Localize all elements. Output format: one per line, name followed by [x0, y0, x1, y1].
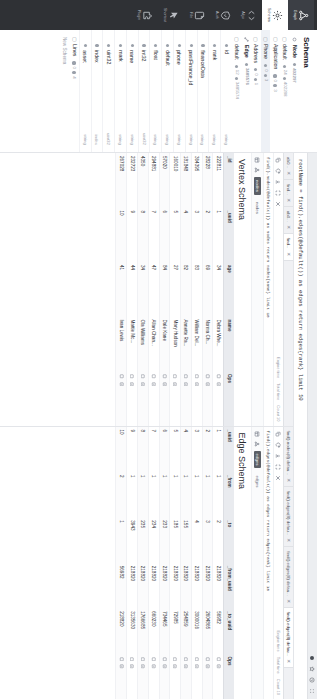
property-row-financedata[interactable]: financeData string: [197, 30, 209, 152]
table-row[interactable]: 294881 7 47 Allan Chan...: [148, 153, 159, 426]
bookmark-star-icon[interactable]: [310, 666, 316, 672]
detail-icon[interactable]: [173, 382, 178, 387]
graph-view-icon[interactable]: [255, 441, 261, 447]
rail-item-shortcut[interactable]: Shortcut: [158, 0, 184, 30]
copy-icon[interactable]: [276, 157, 282, 163]
close-icon[interactable]: ✕: [286, 225, 291, 229]
download-icon[interactable]: [276, 453, 282, 459]
table-row[interactable]: 10 2 1 56982 218820: [116, 427, 127, 699]
tab-vertex-1[interactable]: find...✕: [284, 180, 293, 207]
detail-icon[interactable]: [195, 382, 200, 387]
rail-item-schema[interactable]: Schema: [262, 0, 288, 30]
vertex-table-wrap[interactable]: _id _uuid age name Ops 222811 1: [0, 153, 234, 426]
tree-item-node-default[interactable]: ▢ default 24402288: [280, 30, 290, 152]
close-icon[interactable]: [276, 475, 282, 481]
table-row[interactable]: 8 1 235 218820 1766685: [137, 427, 148, 699]
table-row[interactable]: 222811 1 34 Debra Whe...: [213, 153, 224, 426]
table-row[interactable]: 7 1 234 218820 660230: [148, 427, 159, 699]
close-icon[interactable]: ✕: [286, 538, 291, 542]
table-row[interactable]: 9 1 3943 218820 3135630: [127, 427, 138, 699]
col-name[interactable]: name: [224, 317, 234, 372]
detail-icon[interactable]: [119, 382, 124, 387]
col-age[interactable]: age: [224, 262, 234, 317]
new-schema-button[interactable]: New Schema: [60, 30, 69, 152]
expand-node-icon[interactable]: [141, 657, 146, 662]
checkbox-icon[interactable]: ▢: [72, 37, 76, 41]
close-icon[interactable]: ✕: [286, 252, 291, 256]
close-icon[interactable]: ✕: [286, 599, 291, 603]
table-row[interactable]: 28228 2 69 Norma Ch...: [202, 153, 213, 426]
redo-icon[interactable]: [276, 168, 282, 174]
table-view-icon[interactable]: [255, 157, 261, 163]
close-icon[interactable]: ✕: [286, 171, 291, 175]
col-uuid[interactable]: _uuid: [224, 427, 234, 472]
tab-vertex-3[interactable]: find...✕: [284, 234, 293, 261]
detail-icon[interactable]: [195, 664, 200, 669]
tree-item-node-phone[interactable]: ▢ Phone 03: [261, 30, 271, 152]
detail-icon[interactable]: [119, 664, 124, 669]
expand-node-icon[interactable]: [130, 657, 135, 662]
rail-item-algo[interactable]: Algo: [236, 0, 262, 30]
table-row[interactable]: 2 1 3 218820 2604865: [202, 427, 213, 699]
rail-item-graph[interactable]: Graph: [288, 0, 314, 30]
property-row-default[interactable]: default string: [161, 30, 173, 152]
redo-icon[interactable]: [276, 442, 282, 448]
subtab-nodes[interactable]: nodes: [254, 199, 261, 217]
close-icon[interactable]: [276, 201, 282, 207]
table-row[interactable]: 160010 5 27 Mary Hudson: [170, 153, 181, 426]
property-row-uint32[interactable]: uint32 uint32: [102, 30, 114, 152]
tab-vertex-0[interactable]: ab0...✕: [284, 153, 293, 180]
property-row-mark[interactable]: mark string: [114, 30, 126, 152]
tab-edge-2[interactable]: find().edges(8) defau...✕: [284, 547, 293, 607]
menu-grid-icon[interactable]: [310, 688, 316, 694]
detail-icon[interactable]: [184, 382, 189, 387]
table-row[interactable]: 4350 8 34 Ola Williams: [137, 153, 148, 426]
expand-node-icon[interactable]: [205, 657, 210, 662]
expand-node-icon[interactable]: [141, 374, 146, 379]
table-row[interactable]: 57020 6 84 Dale Kane: [159, 153, 170, 426]
expand-node-icon[interactable]: [173, 374, 178, 379]
property-row-float[interactable]: float string: [149, 30, 161, 152]
tree-item-edge-lines[interactable]: ▢ Lines 04: [69, 30, 79, 152]
expand-node-icon[interactable]: [151, 657, 156, 662]
table-row[interactable]: 267028 10 41 Ivan Lewis: [116, 153, 127, 426]
table-row[interactable]: 3 1 4 218820 3000016: [191, 427, 202, 699]
detail-icon[interactable]: [162, 664, 167, 669]
col-to[interactable]: _to: [224, 517, 234, 562]
expand-node-icon[interactable]: [195, 657, 200, 662]
tree-group-edge[interactable]: Edge 3485576: [242, 30, 252, 152]
checkbox-icon[interactable]: ▢: [235, 37, 239, 41]
graph-view-icon[interactable]: [255, 167, 261, 173]
detail-icon[interactable]: [216, 664, 221, 669]
tab-edge-0[interactable]: find().nodes(8) defau...✕: [284, 427, 293, 487]
close-icon[interactable]: ✕: [286, 478, 291, 482]
property-row-pastfinance-id[interactable]: pastFinance_id string: [185, 30, 197, 152]
expand-node-icon[interactable]: [195, 374, 200, 379]
col-from-uuid[interactable]: _from_uuid: [224, 563, 234, 608]
property-row-int32[interactable]: int32 uint32: [138, 30, 150, 152]
tab-vertex-2[interactable]: ab0...✕: [284, 207, 293, 234]
detail-icon[interactable]: [162, 382, 167, 387]
expand-node-icon[interactable]: [162, 657, 167, 662]
rail-item-auth[interactable]: Auth: [210, 0, 236, 30]
expand-node-icon[interactable]: [205, 374, 210, 379]
expand-node-icon[interactable]: [216, 657, 221, 662]
expand-node-icon[interactable]: [151, 374, 156, 379]
close-icon[interactable]: ✕: [286, 198, 291, 202]
rail-item-file[interactable]: File: [184, 0, 210, 30]
property-row-rank[interactable]: rank string: [208, 30, 220, 152]
table-row[interactable]: 4 1 155 218820 254859: [181, 427, 192, 699]
expand-node-icon[interactable]: [119, 374, 124, 379]
property-row-index[interactable]: index index: [91, 30, 103, 152]
col-from[interactable]: _from: [224, 472, 234, 517]
fullscreen-icon[interactable]: [276, 464, 282, 470]
property-row-name[interactable]: name string: [126, 30, 138, 152]
checkbox-icon[interactable]: ▢: [254, 37, 258, 41]
col-id[interactable]: _id: [224, 153, 234, 208]
property-row-asset[interactable]: asset string: [79, 30, 91, 152]
detail-icon[interactable]: [184, 664, 189, 669]
table-view-icon[interactable]: [255, 431, 261, 437]
checkbox-icon[interactable]: ▢: [283, 37, 287, 41]
tree-item-node-application[interactable]: ▢ Application 03: [270, 30, 280, 152]
tab-edge-3[interactable]: find().edges(8) defau...✕: [284, 608, 293, 668]
